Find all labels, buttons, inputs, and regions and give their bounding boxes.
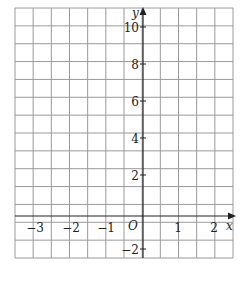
x-tick-label: −2	[62, 221, 80, 235]
y-tick-label: −2	[121, 243, 139, 257]
x-axis	[15, 213, 236, 220]
x-tick-label: −1	[97, 221, 115, 235]
grid-lines	[15, 8, 233, 258]
x-tick-label: 2	[210, 221, 218, 235]
origin-label: O	[128, 219, 138, 233]
coordinate-grid-diagram: y x O −3 −2 −1 1 2 10 8 6 4 2 −2	[0, 0, 242, 286]
y-tick-label: 4	[131, 132, 139, 146]
y-tick-label: 8	[131, 58, 139, 72]
x-tick-label: −3	[26, 221, 44, 235]
y-axis-label: y	[131, 6, 139, 20]
x-axis-label: x	[226, 219, 233, 233]
y-tick-label: 10	[124, 21, 139, 35]
x-tick-labels: −3 −2 −1 1 2	[26, 221, 218, 235]
x-tick-label: 1	[174, 221, 182, 235]
y-tick-label: 2	[131, 169, 139, 183]
y-tick-label: 6	[131, 95, 139, 109]
